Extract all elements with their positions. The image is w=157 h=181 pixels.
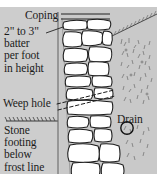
- stone-8b: [90, 116, 111, 128]
- stone-3a: [63, 48, 88, 62]
- label-batter: 2" to 3" batter per foot in height: [4, 25, 44, 74]
- label-stone-footing: Stone footing below frost line: [4, 124, 44, 173]
- label-footing-line1: Stone: [4, 124, 44, 136]
- stone-2a: [63, 32, 83, 47]
- label-footing-line2: footing: [4, 136, 44, 148]
- stone-9b: [94, 129, 112, 142]
- stone-4a: [64, 63, 87, 75]
- footing-stone-1: [68, 144, 100, 163]
- paper-band-top: [0, 0, 157, 7]
- label-footing-line4: frost line: [4, 161, 44, 173]
- label-batter-line2: batter: [4, 37, 44, 49]
- stone-6a: [66, 88, 93, 100]
- label-drain: Drain: [117, 113, 143, 125]
- stone-2b: [82, 31, 103, 46]
- stone-5a: [65, 76, 91, 87]
- label-batter-line3: per foot: [4, 49, 44, 61]
- stone-5b: [92, 76, 112, 87]
- stone-8a: [67, 116, 89, 128]
- label-coping: Coping: [25, 9, 58, 21]
- paper-band-bottom: [0, 174, 157, 181]
- label-footing-line3: below: [4, 148, 44, 160]
- footing-stone-2: [99, 144, 120, 162]
- stone-4b: [88, 62, 109, 76]
- retaining-wall-diagram: Coping 2" to 3" batter per foot in heigh…: [0, 0, 157, 181]
- stone-2c: [102, 31, 112, 45]
- label-weep-hole: Weep hole: [3, 97, 51, 109]
- stone-9a: [68, 129, 93, 143]
- label-batter-line4: in height: [4, 62, 44, 74]
- label-batter-line1: 2" to 3": [4, 25, 44, 37]
- stone-cap-1: [63, 20, 88, 30]
- stone-3b: [89, 47, 112, 62]
- stone-cap-2: [87, 19, 111, 30]
